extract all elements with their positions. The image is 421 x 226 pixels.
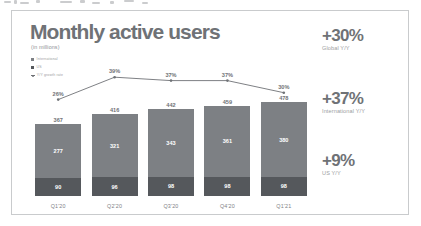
scan-artifacts [0, 0, 421, 9]
growth-line-point [113, 76, 116, 79]
bar-total-label: 442 [148, 102, 194, 108]
bar-total-label: 459 [204, 99, 250, 105]
bar-segment-international: 380 [261, 102, 307, 176]
bar-group: 41632196 [92, 114, 138, 196]
growth-line-point [170, 79, 173, 82]
legend-swatch-icon [31, 58, 34, 61]
growth-rate-label: 37% [165, 72, 176, 78]
bar-segment-international: 277 [35, 124, 81, 178]
bar-segment-us: 98 [261, 177, 307, 196]
bar-segment-international: 321 [92, 114, 138, 177]
bar-segment-us: 98 [204, 177, 250, 196]
bar-segment-us: 98 [148, 177, 194, 196]
bar-group: 44234398 [148, 109, 194, 196]
kpi-international: +37% International Y/Y [322, 90, 402, 114]
bar-total-label: 367 [35, 117, 81, 123]
slide-frame: Monthly active users (in millions) Inter… [11, 10, 409, 215]
growth-line-point [283, 91, 286, 94]
bar-group: 47838098 [261, 102, 307, 196]
legend-item-international: International [31, 56, 111, 62]
legend-label: International [37, 57, 58, 61]
bar-segment-international: 361 [204, 106, 250, 177]
bar-segment-international: 343 [148, 109, 194, 176]
bar-group: 45936198 [204, 106, 250, 196]
x-axis-labels: Q1'20Q2'20Q3'20Q4'20Q1'21 [30, 197, 312, 209]
bar-group: 36727790 [35, 124, 81, 196]
bar-series: 3672779041632196442343984593619847838098 [30, 98, 312, 196]
kpi-value: +37% [322, 90, 402, 107]
x-axis-label: Q1'20 [35, 203, 81, 209]
kpi-global: +30% Global Y/Y [322, 27, 402, 51]
bar-segment-us: 96 [92, 177, 138, 196]
bar-total-label: 416 [92, 107, 138, 113]
x-axis-label: Q2'20 [92, 203, 138, 209]
kpi-value: +9% [322, 152, 402, 169]
kpi-column: +30% Global Y/Y +37% International Y/Y +… [322, 27, 402, 207]
growth-rate-label: 37% [222, 72, 233, 78]
chart-plot-area: 26%39%37%37%30% 367277904163219644234398… [30, 69, 312, 209]
chart-subtitle: (in millions) [31, 44, 60, 50]
kpi-label: Global Y/Y [322, 45, 402, 51]
page-title: Monthly active users [30, 20, 220, 44]
x-axis-label: Q3'20 [148, 203, 194, 209]
growth-rate-label: 30% [278, 84, 289, 90]
growth-rate-label: 26% [53, 91, 64, 97]
bar-segment-us: 90 [35, 178, 81, 196]
x-axis-label: Q4'20 [204, 203, 250, 209]
bar-total-label: 478 [261, 95, 307, 101]
kpi-label: International Y/Y [322, 108, 402, 114]
growth-line-point [226, 79, 229, 82]
growth-rate-label: 39% [109, 68, 120, 74]
x-axis-label: Q1'21 [261, 203, 307, 209]
kpi-value: +30% [322, 27, 402, 44]
kpi-us: +9% US Y/Y [322, 152, 402, 176]
kpi-label: US Y/Y [322, 170, 402, 176]
